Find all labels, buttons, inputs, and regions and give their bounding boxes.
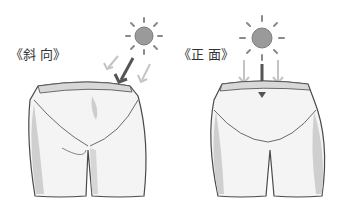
figure-frontal bbox=[211, 81, 325, 197]
light-arrows bbox=[104, 56, 150, 82]
frontal-illustration bbox=[170, 0, 340, 224]
oblique-panel: 《斜 向》 bbox=[0, 0, 170, 224]
sun-icon bbox=[126, 18, 162, 54]
frontal-panel: 《正 面》 bbox=[170, 0, 340, 224]
figure-oblique bbox=[29, 82, 146, 197]
oblique-illustration bbox=[0, 0, 170, 224]
sun-icon bbox=[240, 16, 284, 60]
